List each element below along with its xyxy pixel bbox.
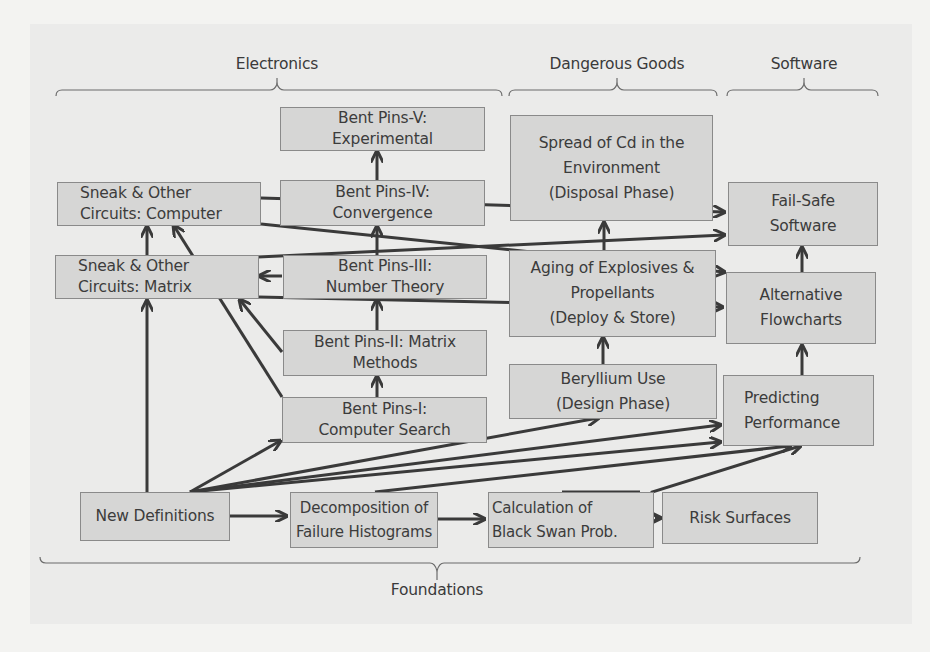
arrow-bentI-sneakcomputer: [174, 226, 282, 397]
node-bent-pins-ii: Bent Pins-II: MatrixMethods: [283, 330, 487, 376]
node-black-swan: Calculation ofBlack Swan Prob.: [488, 492, 654, 548]
node-alternative-flowcharts: AlternativeFlowcharts: [726, 272, 876, 344]
category-dangerous-goods: Dangerous Goods: [550, 55, 685, 73]
node-bent-pins-v: Bent Pins-V:Experimental: [280, 107, 485, 151]
node-beryllium: Beryllium Use(Design Phase): [509, 364, 717, 419]
arrow-bentII-sneakmatrix: [240, 300, 282, 352]
node-predicting-performance: PredictingPerformance: [723, 375, 874, 446]
node-bent-pins-iii: Bent Pins-III:Number Theory: [283, 255, 487, 299]
category-software: Software: [771, 55, 838, 73]
node-sneak-matrix: Sneak & OtherCircuits: Matrix: [55, 255, 259, 299]
category-electronics: Electronics: [236, 55, 318, 73]
node-risk-surfaces: Risk Surfaces: [662, 492, 818, 544]
node-decomposition: Decomposition ofFailure Histograms: [290, 492, 438, 548]
node-sneak-computer: Sneak & OtherCircuits: Computer: [57, 182, 261, 226]
dangerous-goods-brace: [509, 84, 717, 96]
foundations-brace: [40, 557, 860, 571]
node-cd-spread: Spread of Cd in theEnvironment(Disposal …: [510, 115, 713, 221]
node-bent-pins-i: Bent Pins-I:Computer Search: [282, 397, 487, 443]
node-new-definitions: New Definitions: [80, 492, 230, 541]
electronics-brace: [56, 84, 502, 96]
node-aging-explosives: Aging of Explosives &Propellants(Deploy …: [509, 250, 716, 337]
node-bent-pins-iv: Bent Pins-IV:Convergence: [280, 180, 485, 226]
software-brace: [727, 84, 878, 96]
category-foundations: Foundations: [391, 581, 483, 599]
node-fail-safe-software: Fail-SafeSoftware: [728, 182, 878, 246]
